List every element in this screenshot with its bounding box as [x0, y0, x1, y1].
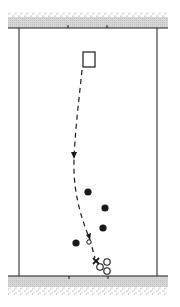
filled-player: [84, 188, 91, 195]
small-open-marker: [87, 240, 91, 244]
play-diagram: [0, 0, 180, 307]
arrow-head-icon: [71, 152, 77, 159]
arrow-head-icon: [86, 233, 91, 240]
filled-player: [101, 204, 108, 211]
x-marker-icon: [93, 258, 99, 264]
open-player: [104, 259, 110, 265]
bottom-gray-band: [8, 276, 168, 287]
filled-player: [72, 239, 79, 246]
bottom-speckle-band: [8, 287, 168, 295]
top-boundary: [8, 12, 168, 28]
top-gray-band: [8, 17, 168, 28]
open-player: [97, 264, 103, 270]
open-player: [104, 268, 110, 274]
bottom-boundary: [8, 276, 168, 295]
start-marker: [83, 52, 95, 67]
movement-path: [74, 70, 95, 258]
filled-player: [99, 224, 106, 231]
